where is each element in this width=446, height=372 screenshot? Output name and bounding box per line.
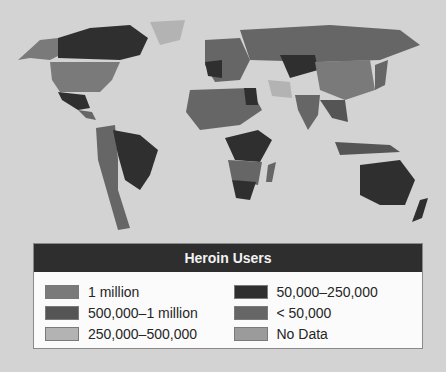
region-japan	[375, 60, 388, 90]
region-central-america	[78, 110, 96, 120]
region-central-asia	[280, 55, 318, 78]
legend-swatch	[234, 306, 268, 320]
legend-item-500k-1m: 500,000–1 million	[45, 302, 234, 323]
region-usa	[50, 62, 120, 92]
region-iran	[268, 80, 292, 98]
region-south-africa	[232, 180, 256, 200]
region-mexico	[58, 92, 90, 110]
legend-swatch	[45, 327, 79, 341]
map-legend: Heroin Users 1 million 500,000–1 million…	[33, 243, 423, 349]
region-canada	[58, 25, 148, 60]
legend-label: 500,000–1 million	[88, 305, 198, 321]
legend-label: 250,000–500,000	[88, 326, 197, 342]
legend-label: < 50,000	[277, 305, 332, 321]
legend-label: No Data	[277, 326, 328, 342]
region-greenland	[150, 20, 185, 45]
legend-title: Heroin Users	[34, 244, 422, 272]
region-russia	[240, 25, 420, 62]
region-china	[315, 60, 375, 100]
region-madagascar	[266, 162, 276, 182]
region-alaska	[18, 38, 60, 60]
legend-swatch	[234, 327, 268, 341]
region-new-zealand	[412, 198, 428, 222]
legend-item-250k-500k: 250,000–500,000	[45, 323, 234, 344]
region-western-europe	[205, 60, 222, 78]
region-africa-central	[225, 130, 272, 162]
legend-item-1-million: 1 million	[45, 281, 234, 302]
legend-swatch	[234, 285, 268, 299]
legend-item-under-50k: < 50,000	[234, 302, 423, 323]
world-map	[0, 0, 446, 240]
legend-swatch	[45, 306, 79, 320]
legend-swatch	[45, 285, 79, 299]
region-australia	[360, 160, 415, 205]
legend-label: 50,000–250,000	[277, 284, 378, 300]
region-egypt	[244, 88, 258, 105]
region-brazil	[113, 130, 158, 190]
legend-label: 1 million	[88, 284, 139, 300]
region-indonesia	[335, 142, 400, 155]
legend-item-no-data: No Data	[234, 323, 423, 344]
region-india	[295, 95, 320, 130]
legend-item-50k-250k: 50,000–250,000	[234, 281, 423, 302]
region-southeast-asia	[320, 100, 348, 122]
